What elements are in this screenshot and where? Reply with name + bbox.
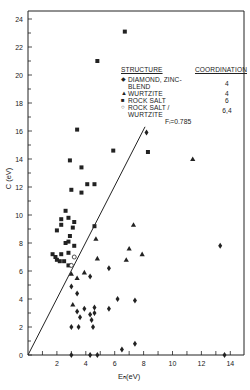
open-circle-marker-icon: ○ <box>121 104 128 118</box>
legend-label: BLEND <box>128 83 151 90</box>
legend-item-wurtzite: ▲ WURTZITE 4 <box>121 90 247 97</box>
svg-text:22: 22 <box>15 44 23 51</box>
svg-text:24: 24 <box>15 16 23 23</box>
svg-text:16: 16 <box>15 128 23 135</box>
legend-coordination: 6 <box>207 97 247 104</box>
svg-text:14: 14 <box>15 156 23 163</box>
svg-text:8: 8 <box>142 360 146 367</box>
fi-line <box>28 127 145 355</box>
svg-text:4: 4 <box>19 296 23 303</box>
plot-frame <box>28 11 244 355</box>
svg-text:0: 0 <box>19 352 23 359</box>
svg-text:20: 20 <box>15 72 23 79</box>
svg-text:6: 6 <box>19 268 23 275</box>
square-marker-icon: ■ <box>121 97 128 104</box>
svg-text:8: 8 <box>19 240 23 247</box>
legend-item-rock-salt: ■ ROCK SALT 6 <box>121 97 247 104</box>
svg-text:10: 10 <box>169 360 177 367</box>
legend-structure-header: STRUCTURE <box>121 66 163 73</box>
legend-coordination: 4 <box>207 76 247 87</box>
svg-text:18: 18 <box>15 100 23 107</box>
legend-label: ROCK SALT <box>128 97 166 104</box>
legend-item-diamond: ◆ DIAMOND, ZINC-BLEND 4 <box>121 76 247 90</box>
svg-text:4: 4 <box>84 360 88 367</box>
legend-item-rock-salt-wurtzite: ○ ROCK SALT /WURTZITE 6,4 <box>121 104 247 118</box>
legend-label: WURTZITE <box>128 90 163 97</box>
legend-coordination: 4 <box>207 90 247 97</box>
svg-text:2: 2 <box>55 360 59 367</box>
legend: STRUCTURE COORDINATION ◆ DIAMOND, ZINC-B… <box>121 66 247 118</box>
scatter-chart: 0246810121416182022242468101214 <box>0 0 250 390</box>
svg-text:12: 12 <box>15 184 23 191</box>
legend-header: STRUCTURE COORDINATION <box>121 66 247 73</box>
legend-coordination-header: COORDINATION <box>195 66 247 73</box>
legend-label: WURTZITE <box>128 111 163 118</box>
legend-label: ROCK SALT / <box>128 104 170 111</box>
fi-annotation: Fᵢ=0.785 <box>165 118 191 125</box>
svg-text:6: 6 <box>113 360 117 367</box>
diamond-marker-icon: ◆ <box>121 76 128 90</box>
x-axis-label: Eₕ(eV) <box>118 372 140 381</box>
legend-coordination: 6,4 <box>207 104 247 114</box>
svg-text:10: 10 <box>15 212 23 219</box>
svg-text:12: 12 <box>198 360 206 367</box>
triangle-marker-icon: ▲ <box>121 90 128 97</box>
legend-label: DIAMOND, ZINC- <box>128 76 182 83</box>
svg-text:2: 2 <box>19 324 23 331</box>
y-axis-label: C (eV) <box>4 168 13 190</box>
svg-text:14: 14 <box>226 360 234 367</box>
